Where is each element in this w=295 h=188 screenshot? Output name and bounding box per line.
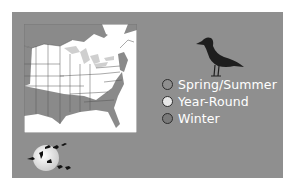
legend-item-year-round: Year-Round (162, 93, 277, 110)
range-map-graphic (24, 24, 137, 133)
legend-label: Winter (178, 111, 220, 126)
legend: Spring/Summer Year-Round Winter (162, 76, 277, 127)
moon-with-flying-birds-icon (25, 135, 85, 175)
legend-label: Year-Round (178, 94, 249, 109)
winter-swatch-icon (162, 113, 173, 124)
spring-summer-swatch-icon (162, 79, 173, 90)
year-round-swatch-icon (162, 96, 173, 107)
legend-label: Spring/Summer (178, 77, 277, 92)
legend-item-winter: Winter (162, 110, 277, 127)
range-map (24, 24, 137, 133)
range-map-card: Spring/Summer Year-Round Winter (12, 12, 283, 178)
gull-silhouette-icon (188, 24, 248, 78)
legend-item-spring-summer: Spring/Summer (162, 76, 277, 93)
